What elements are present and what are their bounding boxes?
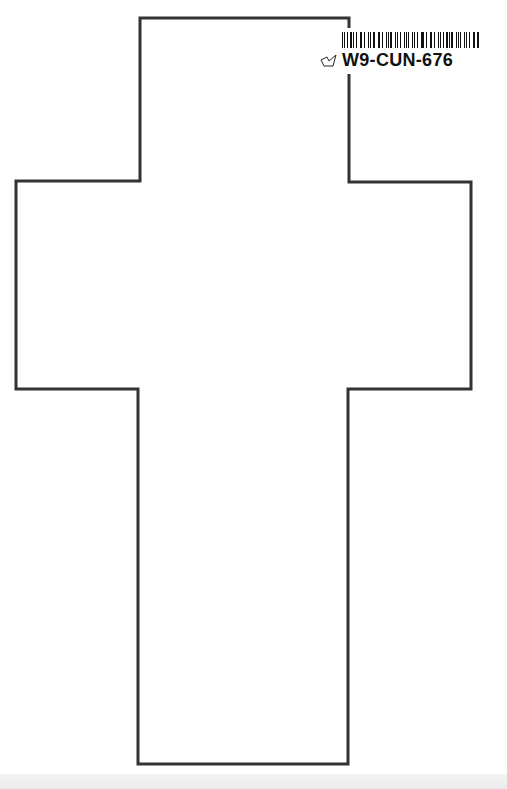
barcode-bar: [412, 32, 413, 48]
barcode-bar: [373, 32, 375, 48]
barcode-bar: [434, 32, 435, 48]
barcode-bar: [469, 32, 470, 48]
barcode-bar: [378, 32, 379, 48]
barcode-bar: [408, 32, 409, 48]
barcode-bar: [473, 32, 474, 48]
barcode-bar: [368, 32, 369, 48]
barcode-bar: [400, 32, 401, 48]
barcode-bar: [458, 32, 459, 48]
barcode-bar: [430, 32, 431, 48]
barcode-bar: [356, 32, 357, 48]
barcode-bar: [390, 32, 391, 48]
barcode-bar: [456, 32, 457, 48]
barcode-bar: [382, 32, 383, 48]
barcode-bar: [440, 32, 441, 48]
barcode-bar: [386, 32, 387, 48]
barcode-bar: [342, 32, 343, 48]
barcode-bar: [477, 32, 479, 48]
barcode-bar: [353, 32, 355, 48]
barcode-bar: [404, 32, 405, 48]
barcode-bar: [361, 32, 362, 48]
barcode-bar: [397, 32, 398, 48]
barcode: [342, 32, 482, 48]
barcode-bar: [431, 32, 432, 48]
barcode-bar: [451, 32, 453, 48]
barcode-bar: [466, 32, 467, 48]
barcode-sticker: W9-CUN-676: [312, 28, 492, 74]
barcode-label: W9-CUN-676: [342, 50, 453, 71]
barcode-bar: [406, 32, 407, 48]
barcode-bar: [414, 32, 415, 48]
barcode-bar: [421, 32, 422, 48]
barcode-bar: [344, 32, 345, 48]
barcode-bar: [395, 32, 397, 48]
cross-shape: [16, 18, 471, 764]
barcode-bar: [438, 32, 439, 48]
barcode-bar: [370, 32, 371, 48]
barcode-bar: [474, 32, 475, 48]
barcode-bar: [360, 32, 361, 48]
barcode-bar: [347, 32, 348, 48]
barcode-bar: [449, 32, 450, 48]
barcode-bar: [460, 32, 461, 48]
barcode-bar: [422, 32, 424, 48]
barcode-bar: [464, 32, 465, 48]
barcode-bar: [388, 32, 389, 48]
barcode-bar: [364, 32, 365, 48]
cross-outline: [0, 0, 507, 789]
barcode-bar: [417, 32, 418, 48]
barcode-bar: [443, 32, 444, 48]
barcode-bar: [426, 32, 427, 48]
barcode-bar: [379, 32, 380, 48]
barcode-bar: [446, 32, 447, 48]
page-bottom-edge: [0, 774, 507, 789]
book-icon: [320, 54, 338, 68]
barcode-bar: [350, 32, 351, 48]
